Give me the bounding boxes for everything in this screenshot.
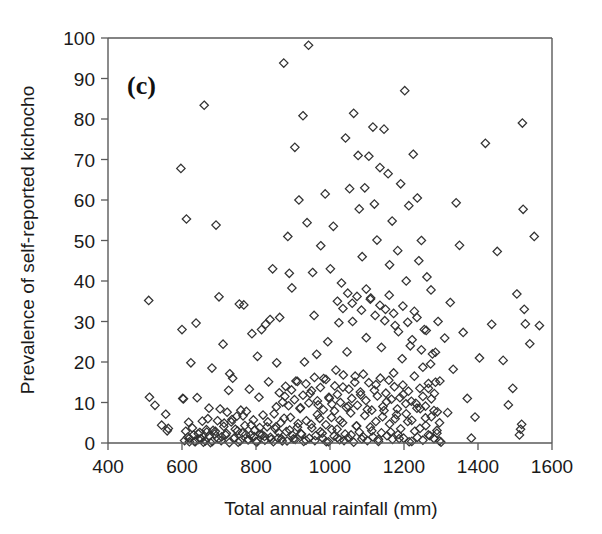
y-tick-label: 80 bbox=[74, 109, 95, 130]
y-tick-label: 20 bbox=[74, 352, 95, 373]
x-tick-label: 1000 bbox=[309, 456, 351, 477]
x-tick-label: 1400 bbox=[457, 456, 499, 477]
chart-canvas: 0102030405060708090100 40060080010001200… bbox=[0, 0, 602, 534]
panel-label: (c) bbox=[127, 71, 156, 100]
y-tick-label: 60 bbox=[74, 190, 95, 211]
y-tick-label: 100 bbox=[63, 28, 95, 49]
x-tick-label: 400 bbox=[92, 456, 124, 477]
x-tick-label: 800 bbox=[240, 456, 272, 477]
x-tick-label: 1600 bbox=[531, 456, 573, 477]
y-tick-label: 0 bbox=[84, 433, 95, 454]
x-tick-label: 1200 bbox=[383, 456, 425, 477]
y-tick-label: 10 bbox=[74, 393, 95, 414]
y-tick-label: 90 bbox=[74, 69, 95, 90]
y-tick-label: 30 bbox=[74, 312, 95, 333]
y-tick-label: 40 bbox=[74, 271, 95, 292]
scatter-plot-figure: 0102030405060708090100 40060080010001200… bbox=[0, 0, 602, 534]
x-axis-title: Total annual rainfall (mm) bbox=[224, 498, 437, 519]
y-tick-label: 70 bbox=[74, 150, 95, 171]
x-tick-label: 600 bbox=[166, 456, 198, 477]
y-axis-title: Prevalence of self-reported kichocho bbox=[17, 86, 38, 394]
y-tick-label: 50 bbox=[74, 231, 95, 252]
